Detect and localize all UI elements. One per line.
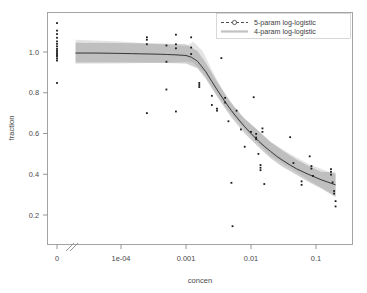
data-point bbox=[335, 200, 337, 202]
data-point bbox=[250, 131, 252, 133]
data-point bbox=[260, 167, 262, 169]
y-axis-ticks: 0.20.40.60.81.0 bbox=[29, 48, 48, 220]
data-point bbox=[56, 82, 58, 84]
data-point bbox=[301, 184, 303, 186]
data-point bbox=[190, 36, 192, 38]
data-point bbox=[330, 174, 332, 176]
data-point bbox=[56, 51, 58, 53]
data-point bbox=[224, 102, 226, 104]
data-point bbox=[211, 104, 213, 106]
legend: 5-param log-logistic 4-param log-logisti… bbox=[217, 14, 351, 39]
data-point bbox=[146, 43, 148, 45]
data-point bbox=[211, 95, 213, 97]
data-point bbox=[330, 171, 332, 173]
y-tick-label: 0.6 bbox=[29, 129, 39, 138]
data-point bbox=[56, 41, 58, 43]
data-point bbox=[333, 190, 335, 192]
data-point bbox=[293, 162, 295, 164]
data-point bbox=[240, 129, 242, 131]
data-point bbox=[190, 47, 192, 49]
data-point bbox=[258, 153, 260, 155]
x-tick-label: 0.01 bbox=[244, 254, 258, 263]
y-tick-label: 0.2 bbox=[29, 211, 39, 220]
data-point bbox=[260, 164, 262, 166]
data-point bbox=[146, 112, 148, 114]
x-tick-label: 0.1 bbox=[311, 254, 321, 263]
x-axis-title: concen bbox=[188, 276, 213, 285]
data-point bbox=[56, 48, 58, 50]
data-point bbox=[56, 60, 58, 62]
y-axis-title: fraction bbox=[7, 116, 16, 141]
data-point bbox=[146, 39, 148, 41]
data-point bbox=[231, 182, 233, 184]
data-point bbox=[333, 193, 335, 195]
data-point bbox=[224, 97, 226, 99]
data-point bbox=[146, 36, 148, 38]
legend-label-4param: 4-param log-logistic bbox=[254, 28, 316, 36]
data-point bbox=[263, 183, 265, 185]
data-point bbox=[232, 225, 234, 227]
data-point bbox=[175, 111, 177, 113]
data-point bbox=[335, 206, 337, 208]
data-point bbox=[216, 108, 218, 110]
data-point bbox=[311, 168, 313, 170]
band-5param bbox=[76, 43, 336, 197]
data-point bbox=[301, 180, 303, 182]
data-point bbox=[198, 84, 200, 86]
data-point bbox=[255, 133, 257, 135]
data-point bbox=[166, 45, 168, 47]
data-point bbox=[332, 182, 334, 184]
data-point bbox=[166, 89, 168, 91]
x-axis-ticks: 01e-040.0010.010.1 bbox=[55, 245, 321, 264]
data-point bbox=[56, 37, 58, 39]
data-point bbox=[216, 110, 218, 112]
data-point bbox=[255, 138, 257, 140]
data-point bbox=[228, 120, 230, 122]
data-point bbox=[311, 165, 313, 167]
data-point bbox=[198, 86, 200, 88]
data-point bbox=[312, 175, 314, 177]
data-point bbox=[166, 61, 168, 63]
data-point bbox=[56, 22, 58, 24]
data-point bbox=[289, 136, 291, 138]
data-point bbox=[175, 43, 177, 45]
y-tick-label: 0.8 bbox=[29, 88, 39, 97]
legend-marker-open-circle-icon bbox=[232, 20, 236, 24]
data-point bbox=[56, 43, 58, 45]
y-tick-label: 0.4 bbox=[29, 170, 39, 179]
data-point bbox=[262, 131, 264, 133]
y-tick-label: 1.0 bbox=[29, 48, 39, 57]
data-point bbox=[175, 34, 177, 36]
data-point bbox=[56, 58, 58, 60]
data-point bbox=[56, 45, 58, 47]
data-point bbox=[330, 168, 332, 170]
data-point bbox=[262, 128, 264, 130]
data-point bbox=[56, 49, 58, 51]
x-tick-label: 0 bbox=[55, 254, 59, 263]
data-point bbox=[56, 33, 58, 35]
data-point bbox=[220, 57, 222, 59]
legend-label-5param: 5-param log-logistic bbox=[254, 19, 316, 27]
data-point bbox=[244, 146, 246, 148]
data-point bbox=[190, 53, 192, 55]
x-tick-label: 1e-04 bbox=[112, 254, 131, 263]
data-point bbox=[255, 137, 257, 139]
data-point bbox=[260, 169, 262, 171]
data-point bbox=[309, 155, 311, 157]
data-point bbox=[236, 110, 238, 112]
data-point bbox=[56, 30, 58, 32]
dose-response-plot: 0.20.40.60.81.0 01e-040.0010.010.1 conce… bbox=[0, 0, 367, 293]
data-point bbox=[175, 47, 177, 49]
data-point bbox=[253, 96, 255, 98]
data-point bbox=[56, 56, 58, 58]
confidence-bands bbox=[76, 40, 336, 197]
plot-canvas: 0.20.40.60.81.0 01e-040.0010.010.1 conce… bbox=[0, 0, 367, 293]
x-tick-label: 0.001 bbox=[177, 254, 196, 263]
data-point bbox=[198, 82, 200, 84]
